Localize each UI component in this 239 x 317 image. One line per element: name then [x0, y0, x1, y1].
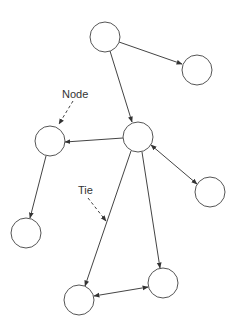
- tie-c-d: [65, 138, 123, 142]
- tie-a-b: [119, 42, 182, 64]
- node-b: [182, 55, 212, 85]
- node-f: [11, 218, 41, 248]
- ties: [30, 42, 197, 296]
- node-a: [90, 22, 120, 52]
- tie-c-e: [151, 145, 197, 184]
- node-g: [148, 268, 178, 298]
- node-annotation-arrow: [59, 101, 73, 124]
- tie-annotation-arrow: [88, 198, 106, 221]
- node-d: [35, 126, 65, 156]
- tie-h-g: [94, 287, 148, 296]
- tie-c-g: [142, 152, 160, 268]
- tie-c-h: [85, 151, 131, 286]
- node-h: [64, 285, 94, 315]
- node-e: [195, 177, 225, 207]
- annotations: Node Tie: [59, 88, 106, 221]
- tie-a-c: [110, 51, 132, 122]
- node-annotation-label: Node: [62, 88, 88, 100]
- tie-annotation-label: Tie: [78, 184, 93, 196]
- tie-d-f: [30, 156, 46, 218]
- node-c: [123, 122, 153, 152]
- network-diagram: Node Tie: [0, 0, 239, 317]
